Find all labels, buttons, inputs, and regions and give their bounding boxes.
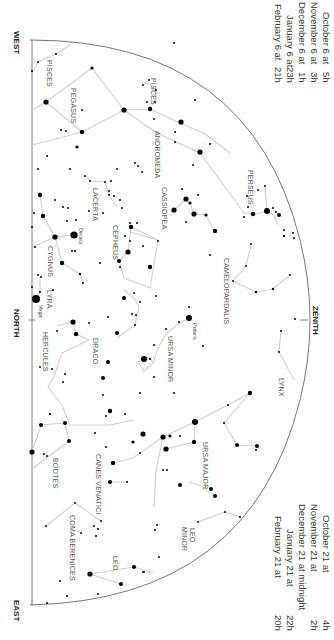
label-polaris: Polaris — [192, 323, 198, 340]
label-perseus: PERSEUS — [247, 170, 254, 205]
constellation-labels: PISCES PEGASUS PISCES ANDROMEDA PERSEUS … — [42, 60, 285, 581]
label-leo-minor-2: MINOR — [181, 527, 188, 551]
label-ursa-major: URSA MAJOR — [202, 442, 209, 490]
label-lacerta: LACERTA — [92, 188, 99, 221]
label-cepheus: CEPHEUS — [112, 225, 119, 260]
time-bottom-date-2: December 21 at midnight — [297, 504, 308, 610]
time-top-date-3: January 6 at — [285, 15, 296, 68]
time-table-top: October 6 at 5h November 6 at 3h Decembe… — [273, 2, 332, 83]
label-lynx: LYNX — [278, 378, 285, 397]
zenith-label: ZENITH — [311, 306, 320, 335]
north-label: NORTH — [12, 309, 21, 338]
label-lyra: LYRA — [46, 290, 53, 309]
time-top-hour-1: 3h — [309, 72, 320, 83]
time-top-date-4: February 6 at — [273, 4, 284, 61]
east-label: EAST — [12, 600, 21, 621]
label-cassiopeia: CASSIOPEA — [161, 187, 168, 229]
time-top-date-0: October 6 at — [321, 12, 332, 65]
label-draco: DRACO — [92, 338, 99, 365]
time-table-bottom: October 21 at 4h November 21 at 2h Decem… — [273, 504, 332, 631]
label-pisces-west: PISCES — [46, 60, 53, 87]
time-bottom-hour-0: 4h — [321, 620, 332, 631]
label-canes-venatici: CANES VENATICI — [95, 454, 102, 515]
label-leo-minor-1: LEO — [189, 528, 196, 543]
label-camelopardalis: CAMELOPARDALIS — [223, 258, 230, 325]
time-top-hour-0: 5h — [321, 72, 332, 83]
label-andromeda: ANDROMEDA — [154, 131, 161, 178]
label-deneb: Deneb — [78, 228, 84, 244]
time-bottom-date-3: January 21 at — [285, 529, 296, 587]
time-bottom-date-4: February 21 at — [273, 516, 284, 578]
label-ursa-minor: URSA MINOR — [167, 336, 174, 382]
time-top-hour-2: 1h — [297, 72, 308, 83]
time-bottom-hour-4: 20h — [273, 615, 284, 631]
time-top-date-2: December 6 at — [297, 2, 308, 65]
label-bootes: BOOTES — [52, 458, 59, 489]
label-coma-berenices: COMA BERENICES — [69, 515, 76, 581]
label-pegasus: PEGASUS — [70, 88, 77, 123]
time-top-date-1: November 6 at — [309, 2, 320, 65]
time-top-hour-4: 21h — [273, 67, 284, 83]
label-pisces-east: PISCES — [150, 78, 157, 105]
label-hercules: HERCULES — [42, 332, 49, 372]
label-leo: LEO — [112, 556, 119, 571]
time-bottom-hour-1: 2h — [309, 620, 320, 631]
time-bottom-date-1: November 21 at — [309, 504, 320, 572]
time-bottom-date-0: October 21 at — [321, 515, 332, 573]
west-label: WEST — [12, 31, 21, 54]
label-cygnus: CYGNUS — [47, 246, 54, 277]
star-chart: WEST NORTH EAST ZENITH PISCES PEGASUS PI… — [0, 0, 334, 640]
time-top-hour-3: 23h — [285, 67, 296, 83]
time-bottom-hour-3: 22h — [285, 615, 296, 631]
label-vega: Vega — [38, 305, 44, 318]
